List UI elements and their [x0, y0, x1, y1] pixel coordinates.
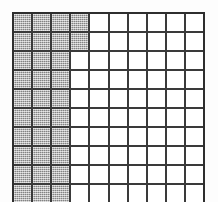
grid-cell-shaded: [71, 14, 88, 31]
grid-cell-empty: [129, 90, 146, 107]
grid-cell-empty: [186, 185, 203, 202]
grid-cell-empty: [71, 109, 88, 126]
grid-cell-shaded: [52, 128, 69, 145]
grid-cell-empty: [186, 166, 203, 183]
grid-cell-empty: [186, 109, 203, 126]
grid-cell-shaded: [14, 14, 31, 31]
grid-cell-shaded: [14, 71, 31, 88]
figure-root: [0, 0, 218, 202]
grid-cell-empty: [90, 128, 107, 145]
grid-cell-shaded: [33, 109, 50, 126]
grid-cell-shaded: [14, 166, 31, 183]
grid-cell-shaded: [52, 52, 69, 69]
grid-cell-empty: [71, 71, 88, 88]
grid-cell-empty: [90, 52, 107, 69]
grid-cell-empty: [110, 128, 127, 145]
grid-cell-empty: [186, 14, 203, 31]
grid-cell-shaded: [52, 147, 69, 164]
grid-cell-empty: [110, 185, 127, 202]
grid-cell-empty: [186, 52, 203, 69]
grid-cell-empty: [90, 185, 107, 202]
grid-cell-shaded: [52, 109, 69, 126]
grid-cell-shaded: [52, 166, 69, 183]
grid-cell-shaded: [14, 128, 31, 145]
grid-cell-empty: [167, 14, 184, 31]
grid-cell-empty: [90, 33, 107, 50]
grid-cell-empty: [167, 71, 184, 88]
grid-cell-empty: [129, 71, 146, 88]
grid-cell-empty: [186, 128, 203, 145]
grid-cell-empty: [167, 52, 184, 69]
grid-cell-shaded: [33, 52, 50, 69]
grid-cell-empty: [186, 71, 203, 88]
grid-cell-empty: [167, 166, 184, 183]
grid-cell-empty: [148, 71, 165, 88]
grid-cell-shaded: [52, 71, 69, 88]
grid-cell-empty: [129, 147, 146, 164]
grid-cell-shaded: [33, 33, 50, 50]
grid-cell-shaded: [33, 185, 50, 202]
grid-cell-empty: [148, 147, 165, 164]
grid-cell-empty: [148, 109, 165, 126]
grid-cell-shaded: [52, 185, 69, 202]
grid-cell-empty: [148, 166, 165, 183]
grid-cell-empty: [167, 185, 184, 202]
grid-cell-empty: [129, 14, 146, 31]
grid-cell-shaded: [14, 90, 31, 107]
grid-cell-empty: [71, 90, 88, 107]
grid-cell-shaded: [33, 71, 50, 88]
grid-cell-empty: [90, 147, 107, 164]
grid-cell-empty: [110, 166, 127, 183]
grid-cell-empty: [148, 52, 165, 69]
grid-cell-empty: [167, 90, 184, 107]
grid-cell-shaded: [33, 90, 50, 107]
grid-cell-empty: [148, 33, 165, 50]
grid-cell-shaded: [14, 52, 31, 69]
grid-cell-shaded: [14, 109, 31, 126]
grid-cell-empty: [167, 109, 184, 126]
grid-cell-shaded: [33, 14, 50, 31]
grid-cell-shaded: [14, 147, 31, 164]
grid-cell-empty: [110, 71, 127, 88]
grid-cell-empty: [110, 52, 127, 69]
grid-cell-empty: [186, 90, 203, 107]
grid-cell-empty: [71, 185, 88, 202]
grid-cell-empty: [110, 90, 127, 107]
grid-cell-empty: [129, 109, 146, 126]
grid-cell-empty: [167, 128, 184, 145]
grid-cell-empty: [90, 166, 107, 183]
grid-cell-empty: [90, 90, 107, 107]
grid-cell-empty: [71, 52, 88, 69]
grid-cell-empty: [71, 128, 88, 145]
grid-cell-empty: [186, 147, 203, 164]
grid-cell-empty: [129, 33, 146, 50]
grid-cell-shaded: [52, 14, 69, 31]
grid-cell-empty: [148, 14, 165, 31]
grid-cell-shaded: [33, 147, 50, 164]
grid-cell-empty: [129, 128, 146, 145]
grid-cell-shaded: [33, 128, 50, 145]
grid-cell-empty: [71, 166, 88, 183]
grid-cell-empty: [90, 71, 107, 88]
grid-cell-empty: [167, 33, 184, 50]
grid-cell-empty: [167, 147, 184, 164]
grid-cell-empty: [110, 33, 127, 50]
grid-cell-shaded: [71, 33, 88, 50]
grid-cell-shaded: [52, 33, 69, 50]
grid-cell-empty: [129, 185, 146, 202]
grid-cell-empty: [148, 185, 165, 202]
grid-cell-empty: [71, 147, 88, 164]
grid-cell-shaded: [14, 185, 31, 202]
grid-cell-empty: [90, 14, 107, 31]
grid-cell-empty: [148, 90, 165, 107]
grid-cell-empty: [90, 109, 107, 126]
grid-cell-shaded: [52, 90, 69, 107]
grid-cell-empty: [186, 33, 203, 50]
grid-cell-empty: [148, 128, 165, 145]
shaded-grid: [12, 12, 205, 202]
grid-cell-empty: [110, 147, 127, 164]
grid-cell-empty: [129, 52, 146, 69]
grid-cell-empty: [110, 14, 127, 31]
grid-cell-empty: [110, 109, 127, 126]
grid-cell-empty: [129, 166, 146, 183]
